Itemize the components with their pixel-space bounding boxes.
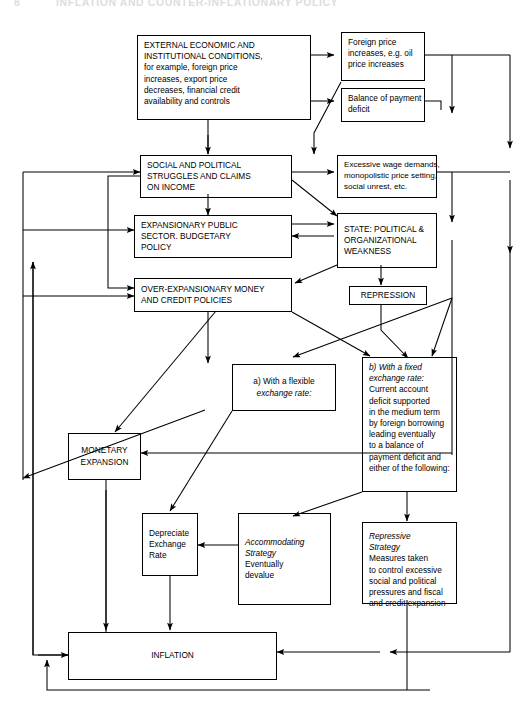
node-line: devalue <box>245 570 324 581</box>
node-line: by foreign borrowing <box>369 418 450 429</box>
node-line: payment deficit and <box>369 452 450 463</box>
node-line: REPRESSION <box>361 290 415 301</box>
social-political-struggles: SOCIAL AND POLITICAL STRUGGLES AND CLAIM… <box>140 155 292 198</box>
node-line: to control excessive <box>369 565 450 576</box>
node-line: Eventually <box>245 559 324 570</box>
node-line: OVER-EXPANSIONARY MONEY <box>141 284 285 295</box>
node-line: exchange rate: <box>369 373 450 384</box>
node-line: POLICY <box>141 242 285 253</box>
edge-right-rail-to-flexible <box>293 298 452 357</box>
node-line: EXPANSIONARY PUBLIC <box>141 220 285 231</box>
edge-over-expansionary-to-monetary <box>115 311 216 432</box>
node-line: MONETARY <box>81 445 127 456</box>
edge-repression-to-fixed <box>381 304 408 358</box>
node-line: ON INCOME <box>147 182 285 193</box>
node-line: exchange rate: <box>257 388 312 399</box>
node-line: STRUGGLES AND CLAIMS <box>147 171 285 182</box>
repression: REPRESSION <box>349 286 427 305</box>
node-line: leading eventually <box>369 429 450 440</box>
node-line: Exchange <box>149 539 191 550</box>
node-line: pressures and fiscal <box>369 587 450 598</box>
fixed-exchange-rate-option: b) With a fixed exchange rate: Current a… <box>362 357 457 492</box>
node-line: Strategy <box>245 548 324 559</box>
node-line: WEAKNESS <box>344 246 430 257</box>
node-line: Accommodating <box>245 537 324 548</box>
edge-foreign-price-to-social <box>314 82 341 154</box>
node-line: AND CREDIT POLICIES <box>141 295 285 306</box>
edge-right-rail-to-fixed <box>432 298 452 356</box>
edge-inflation-to-left-rail-upper <box>33 262 68 655</box>
node-line: in the medium term <box>369 407 450 418</box>
edge-state-to-over-expansionary <box>295 265 337 283</box>
node-line: social unrest, etc. <box>344 182 430 193</box>
node-line: for example, foreign price <box>144 62 304 73</box>
node-line: Depreciate <box>149 528 191 539</box>
node-line: availability and controls <box>144 96 304 107</box>
node-line: EXTERNAL ECONOMIC AND <box>144 40 304 51</box>
inflation: INFLATION <box>68 632 277 680</box>
excessive-wage-demands: Excessive wage demands, monopolistic pri… <box>337 155 437 198</box>
edge-social-to-state <box>292 180 337 216</box>
node-line: price increases <box>348 59 418 70</box>
node-line: monopolistic price setting, <box>344 171 430 182</box>
node-line: Foreign price <box>348 37 418 48</box>
node-line: Repressive <box>369 531 450 542</box>
expansionary-public-sector-policy: EXPANSIONARY PUBLIC SECTOR. BUDGETARY PO… <box>134 215 292 258</box>
node-line: Current account <box>369 384 450 395</box>
node-line: Excessive wage demands, <box>344 160 430 171</box>
node-line: Strategy <box>369 542 450 553</box>
external-economic-conditions: EXTERNAL ECONOMIC AND INSTITUTIONAL COND… <box>137 35 311 120</box>
accommodating-strategy: Accommodating Strategy Eventually devalu… <box>238 513 331 605</box>
state-political-organizational-weakness: STATE: POLITICAL & ORGANIZATIONAL WEAKNE… <box>337 213 437 268</box>
node-line: Measures taken <box>369 553 450 564</box>
edge-flexible-to-depreciate <box>170 411 232 511</box>
node-line: SECTOR. BUDGETARY <box>141 231 285 242</box>
node-line: and credit expansion <box>369 598 450 609</box>
node-line: increases, e.g. oil <box>348 48 418 59</box>
node-line: STATE: POLITICAL & <box>344 224 430 235</box>
node-line: social and political <box>369 576 450 587</box>
foreign-price-increases: Foreign price increases, e.g. oil price … <box>341 32 425 81</box>
depreciate-exchange-rate: Depreciate Exchange Rate <box>142 513 198 576</box>
node-line: INSTITUTIONAL CONDITIONS, <box>144 51 304 62</box>
node-line: Rate <box>149 550 191 561</box>
flexible-exchange-rate-option: a) With a flexible exchange rate: <box>232 364 336 411</box>
over-expansionary-money-credit-policies: OVER-EXPANSIONARY MONEY AND CREDIT POLIC… <box>134 278 292 312</box>
node-line: SOCIAL AND POLITICAL <box>147 160 285 171</box>
node-line: either of the following: <box>369 463 450 474</box>
diagram-page: 8 INFLATION AND COUNTER-INFLATIONARY POL… <box>0 0 524 725</box>
node-line: decreases, financial credit <box>144 85 304 96</box>
repressive-strategy: Repressive Strategy Measures taken to co… <box>362 522 457 604</box>
balance-of-payment-deficit: Balance of payment deficit <box>341 88 425 122</box>
node-line: ORGANIZATIONAL <box>344 235 430 246</box>
node-line: increases, export price <box>144 74 304 85</box>
node-line: deficit supported <box>369 396 450 407</box>
node-line: b) With a fixed <box>369 362 450 373</box>
edge-over-expansionary-to-fixed <box>292 312 370 356</box>
node-line: INFLATION <box>151 650 194 661</box>
node-line: Balance of payment <box>348 93 418 104</box>
node-line: EXPANSION <box>81 457 129 468</box>
node-line: to a balance of <box>369 440 450 451</box>
monetary-expansion: MONETARY EXPANSION <box>68 433 141 480</box>
edge-balance-out-right <box>425 101 441 110</box>
node-line: deficit <box>348 104 418 115</box>
node-line: a) With a flexible <box>253 376 314 387</box>
